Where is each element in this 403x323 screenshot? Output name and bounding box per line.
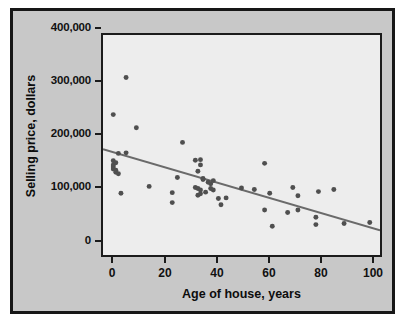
figure-canvas: 400,000 300,000 200,000 100,000 0 <box>13 11 392 311</box>
figure-root: 400,000 300,000 200,000 100,000 0 <box>0 0 403 323</box>
figure-border: 400,000 300,000 200,000 100,000 0 <box>10 8 395 314</box>
x-tick-mark-80 <box>320 257 322 263</box>
x-tick-label-60: 60 <box>262 267 275 279</box>
x-tick-label-40: 40 <box>210 267 223 279</box>
x-tick-mark-40 <box>216 257 218 263</box>
x-tick-mark-0 <box>111 257 113 263</box>
x-tick-mark-20 <box>164 257 166 263</box>
x-axis-title: Age of house, years <box>101 287 382 301</box>
x-tick-label-20: 20 <box>158 267 171 279</box>
x-tick-label-0: 0 <box>109 267 116 279</box>
x-axis-tick-group: 0 20 40 60 80 100 <box>13 11 392 311</box>
y-axis-title: Selling price, dollars <box>24 56 38 216</box>
x-tick-mark-60 <box>268 257 270 263</box>
x-tick-label-80: 80 <box>314 267 327 279</box>
x-tick-label-100: 100 <box>363 267 383 279</box>
x-tick-mark-100 <box>372 257 374 263</box>
